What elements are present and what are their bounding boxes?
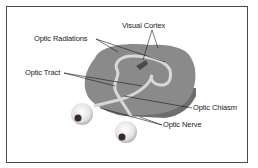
left-eye [71,103,93,125]
label-optic-radiations: Optic Radiations [34,35,87,43]
label-optic-tract: Optic Tract [25,69,60,77]
right-eye [115,121,137,143]
label-optic-nerve: Optic Nerve [163,121,202,129]
label-visual-cortex: Visual Cortex [122,22,165,30]
label-optic-chiasm: Optic Chiasm [193,104,237,112]
